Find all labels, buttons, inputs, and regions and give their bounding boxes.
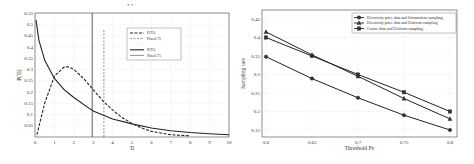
legend-label: Electricity price data and Information s… xyxy=(367,15,443,20)
x-tick-label: 0.75 xyxy=(400,140,409,145)
figure: 0123456789100.050.10.150.20.250.30.350.4… xyxy=(0,0,474,164)
circle-marker-icon xyxy=(402,113,406,117)
y-axis-label: P(Ti) xyxy=(16,69,23,81)
y-tick-label: 0.3 xyxy=(254,72,261,77)
x-axis-label: Ti xyxy=(130,145,135,151)
right-legend: Electricity price data and Information s… xyxy=(352,13,456,33)
legend-label: Electricity price data and Uniform sampl… xyxy=(367,20,438,25)
y-tick-label: 0.4 xyxy=(27,45,34,50)
square-marker-icon xyxy=(310,54,313,57)
legend-label: P(Ti) xyxy=(147,30,156,35)
series-line xyxy=(37,67,190,136)
y-tick-label: 0.1 xyxy=(27,112,34,117)
square-marker-icon xyxy=(402,91,405,94)
circle-marker-icon xyxy=(357,16,361,20)
square-marker-icon xyxy=(448,110,451,113)
y-tick-label: 0.3 xyxy=(27,67,34,72)
left-chart: 0123456789100.050.10.150.20.250.30.350.4… xyxy=(16,3,232,151)
circle-marker-icon xyxy=(448,128,452,132)
circle-marker-icon xyxy=(310,77,314,81)
series-line xyxy=(266,57,450,130)
x-tick-label: 9 xyxy=(208,140,211,145)
left-legend: P(Ti)Pine0.75P(Ti)Pine0.75 xyxy=(127,28,181,60)
x-tick-label: 6 xyxy=(150,140,153,145)
y-tick-label: 0.2 xyxy=(254,109,261,114)
y-tick-label: 0.45 xyxy=(251,17,260,22)
top-annotation: * * xyxy=(127,3,134,8)
triangle-marker-icon xyxy=(264,30,268,34)
y-tick-label: 0.25 xyxy=(251,91,260,96)
x-tick-label: 7 xyxy=(170,140,173,145)
legend-label: Cosine data and Uniform sampling xyxy=(367,26,423,31)
y-tick-label: 0.25 xyxy=(24,78,33,83)
x-tick-label: 2 xyxy=(73,140,76,145)
y-tick-label: 0.35 xyxy=(24,56,33,61)
circle-marker-icon xyxy=(264,55,268,59)
x-tick-label: 0.8 xyxy=(447,140,454,145)
x-tick-label: 0 xyxy=(34,140,37,145)
right-chart: 0.60.650.70.750.80.150.20.250.30.350.40.… xyxy=(240,10,457,151)
x-tick-label: 4 xyxy=(111,140,114,145)
circle-marker-icon xyxy=(356,96,360,100)
y-tick-label: 0.5 xyxy=(27,22,34,27)
square-marker-icon xyxy=(356,73,359,76)
x-tick-label: 0.65 xyxy=(308,140,317,145)
square-marker-icon xyxy=(264,36,267,39)
square-marker-icon xyxy=(357,27,360,30)
y-axis-label: Sampling rate xyxy=(240,58,246,89)
y-tick-label: 0.2 xyxy=(27,90,34,95)
y-tick-label: 0.4 xyxy=(254,35,261,40)
y-tick-label: 0.55 xyxy=(24,11,33,16)
y-tick-label: 0.05 xyxy=(24,123,33,128)
x-tick-label: 1 xyxy=(53,140,56,145)
legend-label: Pine0.75 xyxy=(147,53,161,58)
y-tick-label: 0.15 xyxy=(251,128,260,133)
x-tick-label: 3 xyxy=(92,140,95,145)
x-tick-label: 0.6 xyxy=(263,140,270,145)
x-tick-label: 8 xyxy=(189,140,192,145)
legend-label: P(Ti) xyxy=(147,47,156,52)
x-tick-label: 10 xyxy=(227,140,233,145)
x-axis-label: Threshold Pv xyxy=(345,145,375,151)
y-tick-label: 0.15 xyxy=(24,101,33,106)
y-tick-label: 0.45 xyxy=(24,33,33,38)
legend-label: Pine0.75 xyxy=(147,36,161,41)
y-tick-label: 0.35 xyxy=(251,54,260,59)
